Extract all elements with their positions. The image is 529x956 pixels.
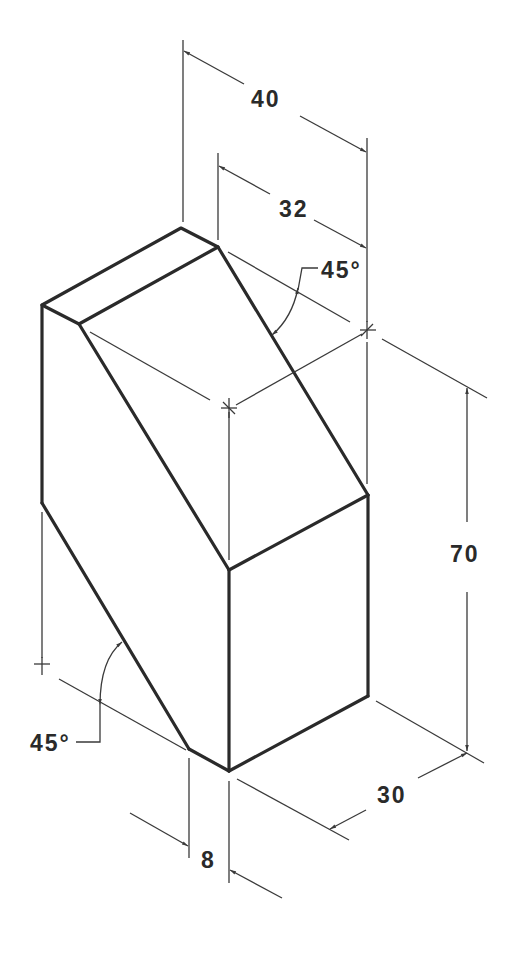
angle-arc-bottom [100,642,122,705]
bottom-front-edge [189,749,229,771]
leader-45-top [298,268,318,290]
dim-label-70: 70 [450,541,480,567]
dim-label-angle-bottom: 45° [30,730,71,756]
object-outline [42,228,368,771]
dim-8-left [130,813,188,846]
dim-label-8: 8 [201,847,216,873]
dim-32-right [314,220,366,248]
dim-30-right [418,753,467,778]
dim-40-right [300,116,366,152]
dimension-lines [76,51,467,898]
dim-label-40: 40 [251,86,281,112]
upper-slope-edge-right [218,247,368,495]
dim-40-left [184,51,244,84]
dim-label-30: 30 [377,782,407,808]
dim-32-left [219,166,270,194]
leader-45-bottom [76,705,100,742]
isometric-drawing: 40 32 45° 70 30 8 45° [0,0,529,956]
dim-30-left [330,810,366,829]
angle-arc-top [272,288,298,335]
front-bottom-edge [229,696,368,771]
top-face-edge [42,228,218,324]
lower-chamfer-edge [42,503,189,749]
upper-slope-edge-left [79,324,229,570]
front-top-edge [229,495,368,570]
dim-8-right [230,870,282,898]
dim-label-32: 32 [279,196,309,222]
construction-lines [34,40,487,883]
dim-label-angle-top: 45° [321,257,362,283]
